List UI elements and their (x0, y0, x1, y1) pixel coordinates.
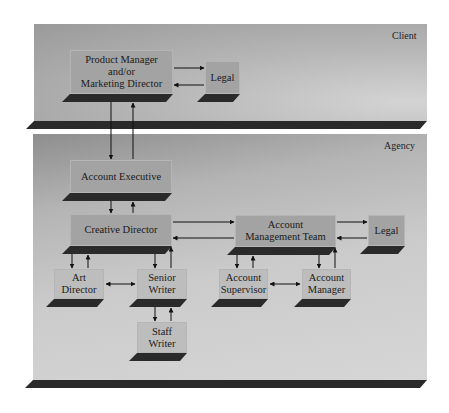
arrow-layer (0, 0, 449, 413)
